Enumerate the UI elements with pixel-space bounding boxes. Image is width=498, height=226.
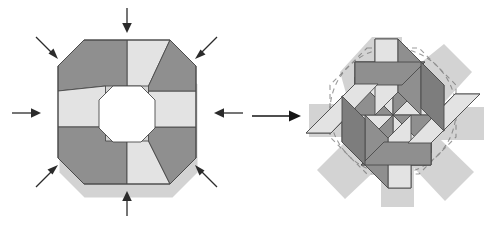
arrow-top	[122, 8, 132, 33]
arrow-bottom-right	[195, 165, 217, 187]
arrow-top-left	[36, 37, 58, 59]
figure-root: Octagonal ring collapsing into a pinwhee…	[0, 0, 498, 226]
right-panel-pinwheel	[306, 37, 484, 207]
transition-arrow	[252, 110, 301, 121]
arrow-right	[214, 108, 243, 118]
arrow-bottom-left	[36, 165, 58, 187]
ring-segment-right	[149, 91, 197, 127]
octagon-inner-hole	[99, 86, 155, 142]
ring-segment-left	[58, 86, 106, 127]
arrow-top-right	[195, 37, 217, 59]
ring-segment-top-left	[58, 40, 127, 91]
arrow-left	[12, 108, 41, 118]
origami-collapse-diagram	[0, 0, 498, 226]
left-panel-octagonal-ring	[12, 8, 243, 216]
